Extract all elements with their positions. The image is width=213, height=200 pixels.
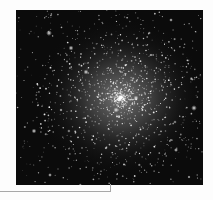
figure — [0, 0, 213, 200]
starfield — [16, 10, 203, 185]
callout-line-horizontal — [0, 191, 111, 192]
callout-line-vertical — [110, 184, 111, 192]
star-cluster-photo — [16, 10, 203, 185]
